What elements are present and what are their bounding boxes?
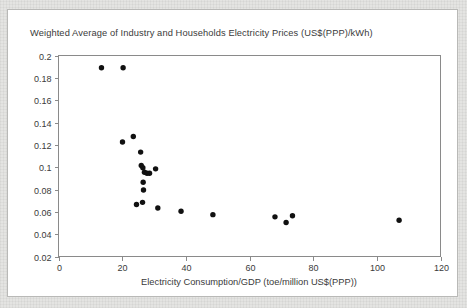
- data-point: [396, 218, 401, 223]
- y-tick-label: 0.08: [34, 186, 52, 196]
- y-tick-label: 0.1: [39, 163, 52, 173]
- data-point: [272, 214, 277, 219]
- y-axis-ticks: [55, 57, 59, 258]
- y-tick-label: 0.04: [34, 230, 52, 240]
- data-point: [99, 65, 104, 70]
- y-tick-label: 0.02: [34, 253, 52, 263]
- y-tick-label: 0.12: [34, 141, 52, 151]
- page-root: Weighted Average of Industry and Househo…: [0, 0, 467, 308]
- x-tick-label: 100: [370, 263, 385, 273]
- data-point: [134, 202, 139, 207]
- y-tick-label: 0.2: [39, 52, 52, 62]
- scatter-plot-svg: 0.020.040.060.080.10.120.140.160.180.2 0…: [0, 0, 467, 308]
- x-tick-label: 120: [434, 263, 449, 273]
- y-tick-label: 0.14: [34, 119, 52, 129]
- data-point: [138, 149, 143, 154]
- y-tick-label: 0.18: [34, 74, 52, 84]
- data-point: [147, 171, 152, 176]
- x-tick-label: 20: [117, 263, 127, 273]
- data-point: [283, 220, 288, 225]
- x-axis-ticks: [60, 257, 442, 261]
- data-point: [141, 187, 146, 192]
- data-point: [290, 213, 295, 218]
- data-point: [140, 200, 145, 205]
- y-tick-label: 0.16: [34, 96, 52, 106]
- x-axis-tick-labels: 020406080100120: [57, 263, 449, 273]
- scatter-plot: 0.020.040.060.080.10.120.140.160.180.2 0…: [0, 0, 467, 308]
- data-point: [131, 134, 136, 139]
- data-point: [155, 205, 160, 210]
- y-tick-label: 0.06: [34, 208, 52, 218]
- x-tick-label: 60: [245, 263, 255, 273]
- data-point: [210, 212, 215, 217]
- x-tick-label: 80: [308, 263, 318, 273]
- data-point-group: [99, 65, 402, 225]
- x-axis-title: Electricity Consumption/GDP (toe/million…: [141, 277, 357, 287]
- data-point: [178, 209, 183, 214]
- data-point: [120, 65, 125, 70]
- x-tick-label: 40: [181, 263, 191, 273]
- x-tick-label: 0: [57, 263, 62, 273]
- data-point: [153, 166, 158, 171]
- data-point: [120, 139, 125, 144]
- y-axis-tick-labels: 0.020.040.060.080.10.120.140.160.180.2: [34, 52, 52, 263]
- axis-frame: [59, 56, 441, 257]
- data-point: [140, 180, 145, 185]
